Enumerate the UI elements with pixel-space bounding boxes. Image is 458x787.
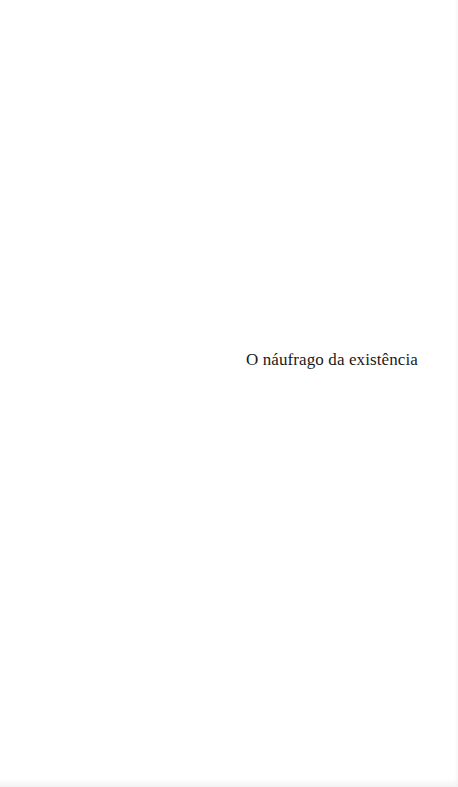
book-page: O náufrago da existência [0,0,458,787]
page-edge-shadow-bottom [0,779,458,787]
half-title: O náufrago da existência [246,350,418,370]
page-edge-shadow-right [454,0,458,787]
